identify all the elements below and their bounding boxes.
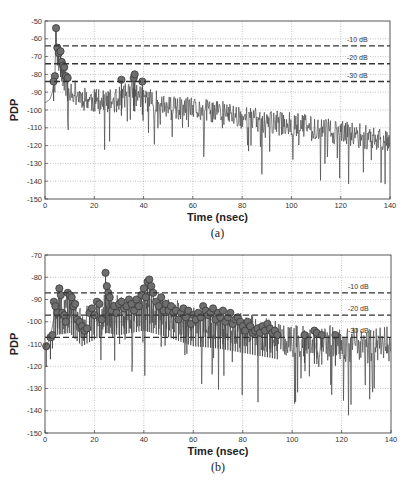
svg-text:-70: -70 (31, 251, 42, 260)
multipath-marker (68, 294, 75, 301)
svg-text:100: 100 (285, 201, 298, 210)
svg-text:-120: -120 (27, 141, 42, 150)
svg-text:-110: -110 (28, 123, 42, 132)
multipath-marker (62, 318, 69, 325)
svg-text:-100: -100 (27, 317, 42, 326)
multipath-marker (72, 300, 79, 307)
figure-caption: (a) (211, 226, 224, 240)
svg-text:80: 80 (238, 201, 246, 210)
y-axis-label: PDP (8, 99, 20, 122)
svg-text:-60: -60 (31, 34, 42, 43)
svg-text:-80: -80 (31, 273, 42, 282)
svg-text:80: 80 (239, 435, 247, 444)
svg-text:-50: -50 (31, 17, 42, 26)
multipath-marker (131, 71, 138, 78)
svg-text:60: 60 (189, 201, 197, 210)
multipath-marker (219, 307, 226, 314)
threshold-label: -10 dB (348, 283, 369, 290)
multipath-marker (56, 285, 63, 292)
multipath-marker (146, 276, 153, 283)
threshold-label: -30 dB (348, 327, 369, 334)
x-axis-label: Time (nsec) (188, 445, 249, 457)
svg-text:-110: -110 (28, 340, 42, 349)
multipath-marker (175, 316, 182, 323)
svg-text:120: 120 (335, 435, 348, 444)
x-axis-label: Time (nsec) (187, 211, 248, 223)
svg-text:20: 20 (90, 435, 98, 444)
multipath-marker (158, 294, 165, 301)
y-axis-label: PDP (8, 333, 20, 356)
multipath-marker (64, 74, 71, 81)
svg-text:-80: -80 (31, 70, 42, 79)
svg-text:-120: -120 (27, 362, 42, 371)
threshold-label: -20 dB (347, 54, 368, 61)
pdp-chart-b: -10 dB-20 dB-30 dB020406080100120140-70-… (0, 245, 413, 488)
threshold-label: -30 dB (347, 72, 368, 79)
svg-text:40: 40 (140, 435, 148, 444)
multipath-marker (96, 300, 103, 307)
pdp-chart-a: -10 dB-20 dB-30 dB020406080100120140-50-… (0, 0, 413, 245)
svg-text:120: 120 (334, 201, 347, 210)
multipath-marker (118, 76, 125, 83)
multipath-marker (102, 269, 109, 276)
svg-text:-140: -140 (27, 177, 42, 186)
multipath-marker (88, 305, 95, 312)
multipath-marker (142, 294, 149, 301)
svg-text:140: 140 (384, 201, 397, 210)
svg-text:0: 0 (43, 435, 47, 444)
multipath-marker (52, 25, 59, 32)
multipath-marker (61, 64, 68, 71)
multipath-marker (140, 285, 147, 292)
figure-panel-a: -10 dB-20 dB-30 dB020406080100120140-50-… (0, 0, 413, 245)
svg-text:-90: -90 (31, 88, 42, 97)
svg-text:0: 0 (43, 201, 47, 210)
svg-text:-100: -100 (27, 106, 42, 115)
multipath-marker (103, 283, 110, 290)
multipath-marker (57, 48, 64, 55)
multipath-marker (52, 303, 59, 310)
svg-text:-140: -140 (27, 406, 42, 415)
multipath-marker (148, 283, 155, 290)
svg-text:100: 100 (286, 435, 299, 444)
multipath-marker (83, 325, 90, 332)
threshold-label: -10 dB (347, 36, 368, 43)
svg-text:-130: -130 (27, 384, 42, 393)
svg-text:60: 60 (189, 435, 197, 444)
svg-text:20: 20 (90, 201, 98, 210)
multipath-marker (98, 316, 105, 323)
svg-text:-70: -70 (31, 52, 42, 61)
svg-text:40: 40 (139, 201, 147, 210)
multipath-marker (135, 303, 142, 310)
figure-caption: (b) (211, 460, 225, 474)
multipath-marker (106, 294, 113, 301)
svg-text:-90: -90 (31, 295, 42, 304)
svg-text:-130: -130 (27, 159, 42, 168)
figure-panel-b: -10 dB-20 dB-30 dB020406080100120140-70-… (0, 245, 413, 488)
threshold-label: -20 dB (348, 305, 369, 312)
svg-text:-150: -150 (27, 195, 42, 204)
svg-text:140: 140 (385, 435, 398, 444)
svg-text:-150: -150 (27, 429, 42, 438)
